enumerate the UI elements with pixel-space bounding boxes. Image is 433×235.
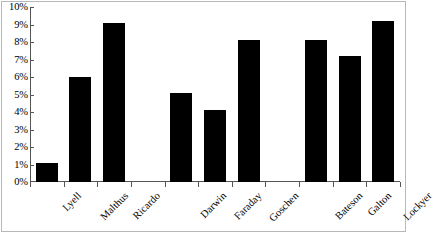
y-axis-tick-text: 2% <box>14 141 30 153</box>
x-axis-tick-mark <box>198 182 199 187</box>
x-axis-tick-mark <box>299 182 300 187</box>
x-axis-tick-mark <box>131 182 132 187</box>
y-axis-tick-text: 7% <box>14 54 30 66</box>
bars-container <box>30 7 400 182</box>
bar[interactable] <box>372 21 394 182</box>
x-axis-tick-mark <box>165 182 166 187</box>
bar[interactable] <box>238 40 260 182</box>
y-axis-tick-label: 10% <box>9 1 30 13</box>
x-axis-category-label: Malthus <box>98 190 130 222</box>
bar-slot <box>299 7 333 182</box>
y-axis-tick-label: 6% <box>14 71 30 83</box>
x-axis-tick-mark <box>366 182 367 187</box>
y-axis-tick-label: 0% <box>14 176 30 188</box>
bar[interactable] <box>170 93 192 182</box>
y-axis: 10%9%8%7%6%5%4%3%2%1%0% <box>0 0 30 189</box>
x-axis-category-label: Lyell <box>61 190 84 213</box>
x-axis-tick-mark <box>97 182 98 187</box>
y-axis-tick-text: 5% <box>14 89 30 101</box>
y-axis-tick-text: 6% <box>14 71 30 83</box>
x-axis-labels: LyellMalthusRicardoDarwinFaradayGoschenB… <box>30 188 400 235</box>
y-axis-tick-label: 2% <box>14 141 30 153</box>
y-axis-tick-text: 4% <box>14 106 30 118</box>
y-axis-tick-label: 4% <box>14 106 30 118</box>
y-axis-tick-text: 0% <box>14 176 30 188</box>
y-axis-tick-text: 9% <box>14 19 30 31</box>
bar[interactable] <box>69 77 91 182</box>
bar[interactable] <box>204 110 226 182</box>
y-axis-tick-text: 10% <box>9 1 30 13</box>
x-axis-category-label: Faraday <box>232 190 264 222</box>
x-axis-tick-mark <box>333 182 334 187</box>
bar-slot <box>30 7 64 182</box>
x-axis-category-label: Galton <box>365 190 393 218</box>
x-axis-category-label: Ricardo <box>131 190 162 221</box>
bar[interactable] <box>36 163 58 182</box>
y-axis-tick-label: 8% <box>14 36 30 48</box>
x-axis-category-label: Bateson <box>333 190 365 222</box>
x-axis-tick-mark <box>232 182 233 187</box>
y-axis-tick-label: 3% <box>14 124 30 136</box>
bar-slot <box>165 7 199 182</box>
y-axis-tick-label: 9% <box>14 19 30 31</box>
bar-slot-empty <box>131 7 165 182</box>
bar-slot <box>64 7 98 182</box>
bar-slot <box>97 7 131 182</box>
y-axis-tick-label: 1% <box>14 159 30 171</box>
y-axis-tick-label: 5% <box>14 89 30 101</box>
y-axis-tick-label: 7% <box>14 54 30 66</box>
x-axis-category-label: Darwin <box>198 190 228 220</box>
y-axis-tick-text: 1% <box>14 159 30 171</box>
bar-slot <box>333 7 367 182</box>
bar[interactable] <box>305 40 327 182</box>
bar-slot <box>366 7 400 182</box>
bar-slot-empty <box>265 7 299 182</box>
bar-slot <box>232 7 266 182</box>
x-axis-tick-mark <box>400 182 401 187</box>
bar-slot <box>198 7 232 182</box>
y-axis-tick-text: 3% <box>14 124 30 136</box>
y-axis-tick-text: 8% <box>14 36 30 48</box>
x-axis-tick-mark <box>30 182 31 187</box>
x-axis-tick-mark <box>265 182 266 187</box>
x-axis-tick-mark <box>64 182 65 187</box>
bar[interactable] <box>339 56 361 182</box>
bar[interactable] <box>103 23 125 182</box>
x-axis-category-label: Goschen <box>267 190 301 224</box>
